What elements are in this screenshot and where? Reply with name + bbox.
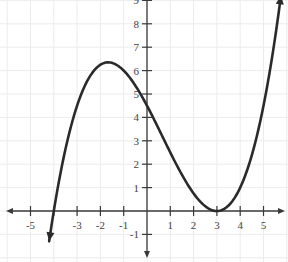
x-tick-label: -2 [96,219,105,231]
curve-layer [46,0,283,241]
y-tick-label: 8 [134,18,140,30]
y-tick-label: 2 [134,158,140,170]
axes [6,0,285,258]
x-axis-right-arrow [278,208,285,214]
x-tick-label: -1 [119,219,128,231]
y-tick-label: -1 [130,228,139,240]
x-tick-label: 4 [237,219,243,231]
x-tick-label: -3 [73,219,83,231]
y-axis-down-arrow [144,251,150,258]
x-tick-label: 5 [261,219,267,231]
y-tick-label: 1 [134,182,140,194]
x-tick-label: 3 [214,219,220,231]
x-tick-label: -5 [26,219,36,231]
y-tick-label: 4 [134,111,140,123]
curve-f-x [49,0,281,241]
y-tick-label: 3 [134,135,140,147]
grid [0,0,288,262]
x-tick-label: 1 [168,219,174,231]
x-tick-label: 2 [191,219,197,231]
function-graph: -5-3-2-112345-1123456789 [0,0,288,262]
y-tick-label: 7 [134,41,140,53]
y-tick-label: 9 [134,0,140,6]
y-tick-label: 6 [134,65,140,77]
